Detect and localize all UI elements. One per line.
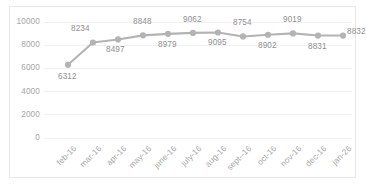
data-point-label: 8497 <box>106 45 125 54</box>
data-point-label: 8831 <box>308 42 327 51</box>
gridlines <box>44 22 352 138</box>
data-point-label: 8832 <box>347 27 366 36</box>
data-point-label: 8234 <box>71 24 90 33</box>
data-marker <box>290 30 296 36</box>
y-tick-label: 6000 <box>2 63 40 72</box>
data-marker <box>340 32 346 38</box>
data-marker <box>265 32 271 38</box>
data-marker <box>315 32 321 38</box>
data-point-label: 6312 <box>58 72 77 81</box>
data-point-label: 9019 <box>283 15 302 24</box>
data-point-label: 8979 <box>158 40 177 49</box>
y-tick-label: 8000 <box>2 40 40 49</box>
data-marker <box>140 32 146 38</box>
data-marker <box>165 31 171 37</box>
data-point-label: 8848 <box>133 17 152 26</box>
data-marker <box>65 62 71 68</box>
data-point-label: 8902 <box>258 41 277 50</box>
data-marker <box>190 30 196 36</box>
y-tick-label: 10000 <box>2 17 40 26</box>
data-point-label: 8754 <box>233 18 252 27</box>
y-tick-label: 0 <box>2 133 40 142</box>
data-point-label: 9095 <box>208 38 227 47</box>
data-marker <box>215 29 221 35</box>
data-point-label: 9062 <box>183 15 202 24</box>
data-marker <box>240 33 246 39</box>
data-marker <box>115 36 121 42</box>
y-tick-label: 4000 <box>2 87 40 96</box>
data-marker <box>90 39 96 45</box>
y-tick-label: 2000 <box>2 110 40 119</box>
